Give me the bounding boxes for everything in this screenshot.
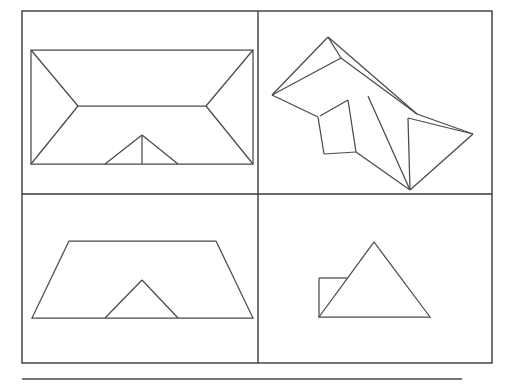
page-background (0, 0, 514, 386)
technical-drawing-svg (0, 0, 514, 386)
figure-container (0, 0, 514, 386)
